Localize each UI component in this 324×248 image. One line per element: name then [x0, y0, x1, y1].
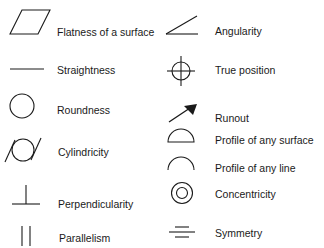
symbol-label: Angularity — [215, 25, 262, 37]
symbol-label: Profile of any surface — [215, 134, 314, 146]
symbol-label: True position — [215, 64, 275, 76]
semicircle-closed-icon — [166, 126, 196, 144]
arrow-icon — [168, 103, 198, 123]
parallel-lines-icon — [20, 225, 32, 247]
three-lines-icon — [168, 224, 196, 240]
parallelogram-icon — [8, 8, 52, 38]
symbol-label: Perpendicularity — [58, 198, 133, 210]
symbol-label: Profile of any line — [215, 162, 296, 174]
perpendicular-icon — [11, 184, 41, 208]
symbol-label: Flatness of a surface — [57, 26, 154, 38]
circle-icon — [8, 92, 36, 120]
horizontal-line-icon — [9, 66, 45, 72]
crosshair-circle-icon — [166, 55, 196, 87]
symbol-label: Cylindricity — [58, 146, 109, 158]
symbol-label: Parallelism — [59, 232, 110, 244]
symbol-label: Roundness — [57, 104, 110, 116]
arc-icon — [166, 154, 196, 172]
circle-between-slanted-lines-icon — [3, 136, 43, 164]
angle-icon — [165, 14, 199, 36]
symbol-label: Straightness — [57, 64, 115, 76]
symbol-label: Runout — [215, 112, 249, 124]
symbol-label: Symmetry — [215, 227, 262, 239]
concentric-circles-icon — [170, 181, 194, 205]
symbol-label: Concentricity — [215, 188, 276, 200]
